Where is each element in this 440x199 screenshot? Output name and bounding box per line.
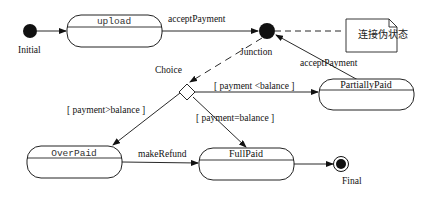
state-partiallypaid-name: PartiallyPaid [340,79,392,90]
choice-label: Choice [155,65,182,75]
state-overpaid-name: OverPaid [51,148,97,159]
transition-label-accept-payment-2: acceptPayment [300,58,358,68]
junction-label: Junction [240,47,272,57]
transition-label-make-refund: makeRefund [138,149,187,159]
state-upload: upload [67,15,162,47]
transition-junction-choice [190,38,262,82]
final-node [334,157,349,172]
choice-node [179,84,195,100]
junction-node [259,23,275,39]
state-partiallypaid: PartiallyPaid [319,79,414,110]
transition-label-payment-eq-balance: [ payment=balance ] [196,113,274,123]
state-diagram: Initial upload acceptPayment Junction 连接… [0,0,440,199]
note: 连接伪状态 [346,19,408,52]
transition-label-payment-lt-balance: [ payment <balance ] [214,81,295,91]
note-text: 连接伪状态 [358,28,408,40]
state-upload-name: upload [97,16,131,27]
state-fullpaid-name: FullPaid [229,148,263,159]
transition-label-payment-gt-balance: [ payment>balance ] [67,105,145,115]
initial-node [23,24,37,38]
transition-choice-overpaid [113,93,180,145]
transition-label-accept-payment-1: acceptPayment [168,14,226,24]
state-overpaid: OverPaid [27,146,122,178]
transition-overpaid-fullpaid [122,162,198,163]
initial-label: Initial [18,45,41,55]
final-label: Final [342,176,362,186]
state-fullpaid: FullPaid [199,148,294,180]
